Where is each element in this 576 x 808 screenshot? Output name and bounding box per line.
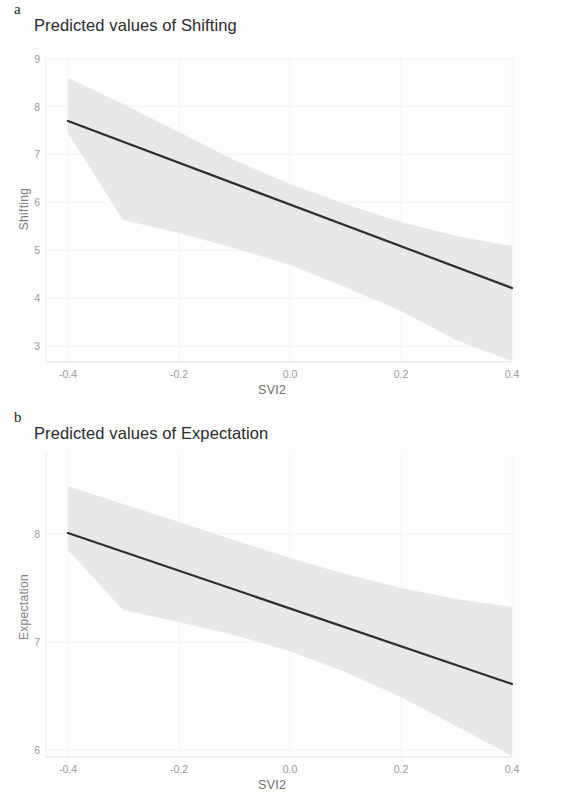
panel-b-xtick-3: 0.2 xyxy=(381,763,421,775)
panel-b-plot: 8 7 6 -0.4 -0.2 0.0 0.2 0.4 Expectation … xyxy=(0,404,576,808)
panel-b-xtick-0: -0.4 xyxy=(48,763,88,775)
panel-a-xtick-4: 0.4 xyxy=(492,368,532,380)
panel-b-xtick-2: 0.0 xyxy=(270,763,310,775)
panel-a-ytick-2: 7 xyxy=(22,148,40,160)
panel-b-xtick-4: 0.4 xyxy=(492,763,532,775)
panel-a-plot: 9 8 7 6 5 4 3 -0.4 -0.2 0.0 0.2 0.4 Shif… xyxy=(0,0,576,404)
panel-a-xtick-2: 0.0 xyxy=(270,368,310,380)
panel-a-ytick-0: 9 xyxy=(22,53,40,65)
panel-a-xtick-1: -0.2 xyxy=(159,368,199,380)
panel-b-x-axis-title: SVI2 xyxy=(258,778,286,792)
panel-b-chart-svg xyxy=(0,404,576,808)
panel-b-ytick-0: 8 xyxy=(22,528,40,540)
figure-container: a Predicted values of Shifting xyxy=(0,0,576,808)
panel-b: b Predicted values of Expectation xyxy=(0,404,576,808)
panel-a-y-axis-title: Shifting xyxy=(17,169,31,249)
panel-a-x-axis-title: SVI2 xyxy=(258,383,286,397)
panel-a-xtick-0: -0.4 xyxy=(48,368,88,380)
panel-b-y-axis-title: Expectation xyxy=(17,561,31,653)
panel-a-chart-svg xyxy=(0,0,576,404)
panel-a-ytick-6: 3 xyxy=(22,340,40,352)
panel-b-xtick-1: -0.2 xyxy=(159,763,199,775)
panel-a-xtick-3: 0.2 xyxy=(381,368,421,380)
panel-a: a Predicted values of Shifting xyxy=(0,0,576,404)
panel-b-ytick-2: 6 xyxy=(22,744,40,756)
panel-a-ytick-5: 4 xyxy=(22,292,40,304)
panel-a-ytick-1: 8 xyxy=(22,101,40,113)
